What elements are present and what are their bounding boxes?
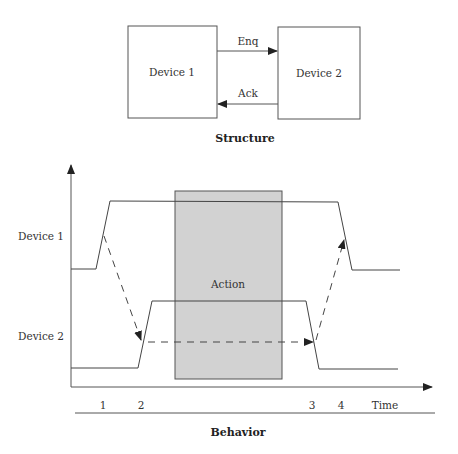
time-label: Time xyxy=(372,399,399,411)
device2-label: Device 2 xyxy=(296,67,342,79)
time-tick-1: 1 xyxy=(100,399,107,411)
time-tick-4: 4 xyxy=(338,399,345,411)
diagram-canvas: Device 1 Device 2 Enq Ack Structure Acti… xyxy=(0,0,458,454)
structure-title: Structure xyxy=(215,132,274,145)
ack-label: Ack xyxy=(237,87,258,99)
y-label-device1: Device 1 xyxy=(18,230,64,242)
structure-diagram: Device 1 Device 2 Enq Ack Structure xyxy=(128,26,360,145)
time-tick-2: 2 xyxy=(138,399,145,411)
enq-dashed-arrow xyxy=(104,236,141,340)
time-tick-3: 3 xyxy=(309,399,316,411)
ack-dashed-arrow xyxy=(316,240,344,340)
y-label-device2: Device 2 xyxy=(18,330,64,342)
behavior-diagram: Action Device 1 Device 2 1 2 3 4 Time Be… xyxy=(18,165,435,439)
action-label: Action xyxy=(210,278,245,290)
enq-label: Enq xyxy=(237,35,258,47)
behavior-title: Behavior xyxy=(210,426,265,439)
device1-label: Device 1 xyxy=(149,66,195,78)
